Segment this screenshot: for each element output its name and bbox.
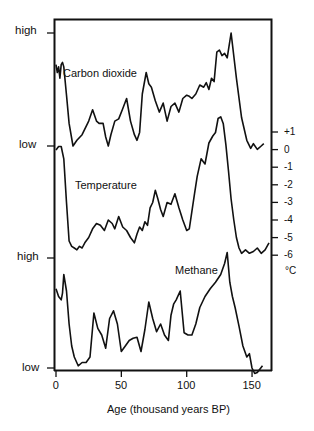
x-tick-label: 0 [53, 379, 59, 391]
right-tick-label: -1 [284, 161, 293, 172]
right-tick-label: -3 [284, 196, 293, 207]
co2-low-label: low [19, 138, 36, 150]
right-tick-label: -6 [284, 249, 293, 260]
left-ticks [47, 33, 54, 368]
right-tick-label: -5 [284, 232, 293, 243]
co2-high-label: high [15, 24, 37, 36]
co2-curve [56, 33, 264, 149]
x-tick-label: 50 [115, 379, 127, 391]
x-tick-label: 100 [177, 379, 195, 391]
x-tick-label: 150 [242, 379, 260, 391]
ch4-low-label: low [22, 361, 39, 373]
right-tick-label: 0 [284, 144, 290, 155]
temperature-series-label: Temperature [75, 179, 137, 191]
x-axis-title: Age (thousand years BP) [107, 403, 230, 415]
ice-core-chart [0, 0, 314, 431]
x-ticks [56, 371, 252, 377]
co2-series-label: Carbon dioxide [63, 67, 137, 79]
right-tick-label: -2 [284, 179, 293, 190]
unit-label: °C [285, 265, 296, 276]
right-tick-label: -4 [284, 214, 293, 225]
right-tick-label: +1 [284, 126, 295, 137]
ch4-high-label: high [17, 250, 39, 262]
methane-series-label: Methane [175, 264, 218, 276]
methane-curve [56, 253, 263, 374]
